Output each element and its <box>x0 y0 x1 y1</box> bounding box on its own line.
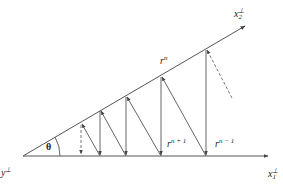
projection-diagonal <box>82 124 100 156</box>
slanted-axis-label: x2⊥ <box>234 8 244 21</box>
angle-label: θ <box>46 142 51 152</box>
dashed-projection-last <box>207 50 232 98</box>
r-n-label: rn <box>160 55 167 66</box>
projection-diagram <box>0 0 283 186</box>
r-n-minus-1-label: rn − 1 <box>215 138 234 149</box>
origin-label: y⊥ <box>1 167 11 178</box>
projection-diagonal <box>127 97 161 156</box>
horizontal-axis-label: x1⊥ <box>268 168 278 181</box>
projection-diagonal <box>101 111 126 156</box>
angle-arc <box>55 137 60 156</box>
slanted-axis <box>23 26 245 156</box>
r-n-plus-1-label: rn + 1 <box>167 138 186 149</box>
